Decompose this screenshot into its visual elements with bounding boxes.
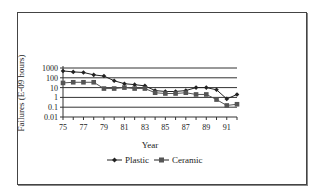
- y-tick-label: 0.1: [48, 103, 58, 112]
- data-point: [71, 70, 76, 75]
- legend-item-ceramic: Ceramic: [154, 155, 203, 165]
- data-point: [91, 73, 96, 78]
- data-point: [204, 85, 209, 90]
- data-point: [91, 80, 96, 85]
- data-point: [235, 92, 240, 97]
- data-point: [71, 80, 76, 85]
- legend-label-plastic: Plastic: [125, 155, 149, 165]
- series-plastic: [61, 69, 240, 102]
- data-point: [143, 86, 148, 91]
- axes: 10001001010.10.01757779818385878991: [42, 64, 237, 132]
- legend-item-plastic: Plastic: [107, 155, 149, 165]
- y-tick-label: 10: [50, 84, 58, 93]
- x-tick-label: 75: [59, 123, 67, 132]
- data-point: [81, 80, 86, 85]
- data-point: [122, 85, 127, 90]
- data-point: [235, 102, 240, 107]
- data-point: [214, 97, 219, 102]
- data-point: [194, 85, 199, 90]
- data-point: [132, 86, 137, 91]
- y-tick-label: 0.01: [44, 113, 58, 122]
- legend: Plastic Ceramic: [107, 155, 203, 165]
- data-point: [61, 69, 66, 74]
- data-point: [224, 103, 229, 108]
- y-axis-label: Failures (E-09 hours): [16, 55, 26, 132]
- data-point: [173, 91, 178, 96]
- series-ceramic: [61, 80, 240, 108]
- y-tick-label: 1000: [42, 64, 58, 73]
- x-tick-label: 91: [223, 123, 231, 132]
- x-tick-label: 83: [141, 123, 149, 132]
- y-tick-label: 100: [46, 74, 58, 83]
- data-point: [184, 90, 189, 95]
- y-tick-label: 1: [54, 93, 58, 102]
- x-tick-label: 89: [202, 123, 210, 132]
- x-tick-label: 85: [161, 123, 169, 132]
- data-point: [81, 70, 86, 75]
- data-point: [163, 91, 168, 96]
- data-point: [112, 86, 117, 91]
- data-point: [194, 92, 199, 97]
- legend-label-ceramic: Ceramic: [172, 155, 203, 165]
- x-axis-label: Year: [142, 140, 159, 150]
- data-series: [61, 69, 240, 108]
- x-tick-label: 79: [100, 123, 108, 132]
- diamond-marker-icon: [112, 158, 117, 163]
- data-point: [112, 78, 117, 83]
- data-point: [153, 90, 158, 95]
- x-tick-label: 77: [79, 123, 87, 132]
- data-point: [102, 86, 107, 91]
- data-point: [204, 92, 209, 97]
- x-tick-label: 87: [182, 123, 190, 132]
- data-point: [61, 81, 66, 86]
- line-chart: 10001001010.10.01757779818385878991 Fail…: [0, 0, 322, 196]
- square-marker-icon: [159, 158, 164, 163]
- x-tick-label: 81: [120, 123, 128, 132]
